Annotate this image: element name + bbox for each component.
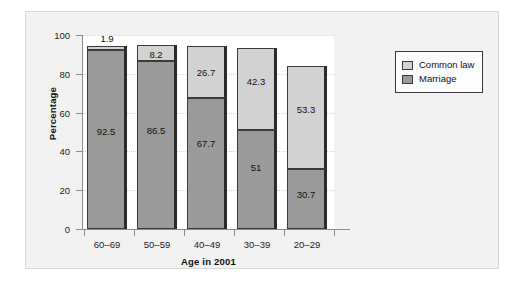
x-tick-label-50-59: 50–59 <box>137 240 177 250</box>
chart-figure: 100 80 60 40 20 0 Percentage 92.5 1.9 8.… <box>25 11 499 269</box>
x-axis-line <box>82 229 350 230</box>
x-tick-4 <box>284 230 285 236</box>
bar-segment-marriage-60-69[interactable]: 92.5 <box>87 50 127 230</box>
bar-value-common-law-20-29: 53.3 <box>288 105 324 115</box>
x-tick-5 <box>334 230 335 236</box>
bar-value-marriage-50-59: 86.5 <box>138 126 174 136</box>
y-tick-label-100: 100 <box>36 31 70 41</box>
legend-label-common-law: Common law <box>419 60 474 70</box>
y-tick-60 <box>76 113 82 114</box>
chart-legend: Common law Marriage <box>395 51 483 93</box>
x-tick-3 <box>234 230 235 236</box>
y-tick-label-20: 20 <box>36 186 70 196</box>
bar-segment-common-law-30-39[interactable]: 42.3 <box>237 48 277 130</box>
bar-value-marriage-40-49: 67.7 <box>188 139 224 149</box>
x-tick-label-30-39: 30–39 <box>237 240 277 250</box>
x-axis-title: Age in 2001 <box>83 256 334 267</box>
y-tick-0 <box>76 229 82 230</box>
legend-swatch-marriage-icon <box>402 75 413 84</box>
bar-segment-common-law-20-29[interactable]: 53.3 <box>287 66 327 169</box>
bar-group-20-29[interactable]: 53.3 30.7 <box>287 35 327 229</box>
bar-group-40-49[interactable]: 26.7 67.7 <box>187 35 227 229</box>
bar-value-common-law-30-39: 42.3 <box>238 77 274 87</box>
plot-area: 92.5 1.9 8.2 86.5 26.7 67.7 42.3 <box>83 35 334 229</box>
bar-group-50-59[interactable]: 8.2 86.5 <box>137 35 177 229</box>
bar-value-marriage-30-39: 51 <box>238 163 274 173</box>
x-tick-2 <box>184 230 185 236</box>
legend-item-marriage[interactable]: Marriage <box>402 72 474 86</box>
bar-value-common-law-60-69: 1.9 <box>87 34 127 44</box>
x-tick-label-40-49: 40–49 <box>187 240 227 250</box>
y-axis-title: Percentage <box>47 66 58 162</box>
y-tick-20 <box>76 190 82 191</box>
bar-value-marriage-20-29: 30.7 <box>288 190 324 200</box>
y-tick-label-0: 0 <box>36 225 70 235</box>
bar-value-common-law-40-49: 26.7 <box>188 68 224 78</box>
legend-label-marriage: Marriage <box>419 74 457 84</box>
y-tick-100 <box>76 35 82 36</box>
x-tick-label-60-69: 60–69 <box>87 240 127 250</box>
legend-item-common-law[interactable]: Common law <box>402 58 474 72</box>
y-tick-40 <box>76 151 82 152</box>
y-tick-80 <box>76 74 82 75</box>
x-tick-label-20-29: 20–29 <box>287 240 327 250</box>
bar-segment-marriage-50-59[interactable]: 86.5 <box>137 61 177 229</box>
bar-group-30-39[interactable]: 42.3 51 <box>237 35 277 229</box>
x-tick-1 <box>134 230 135 236</box>
bar-value-common-law-50-59: 8.2 <box>138 50 174 60</box>
bar-segment-common-law-50-59[interactable]: 8.2 <box>137 45 177 61</box>
legend-swatch-common-law-icon <box>402 61 413 70</box>
bar-segment-common-law-40-49[interactable]: 26.7 <box>187 46 227 98</box>
bar-value-marriage-60-69: 92.5 <box>88 127 124 137</box>
bar-segment-marriage-30-39[interactable]: 51 <box>237 130 277 229</box>
x-tick-0 <box>84 230 85 236</box>
bar-segment-marriage-40-49[interactable]: 67.7 <box>187 98 227 229</box>
bar-segment-marriage-20-29[interactable]: 30.7 <box>287 169 327 229</box>
bar-group-60-69[interactable]: 92.5 1.9 <box>87 35 127 229</box>
